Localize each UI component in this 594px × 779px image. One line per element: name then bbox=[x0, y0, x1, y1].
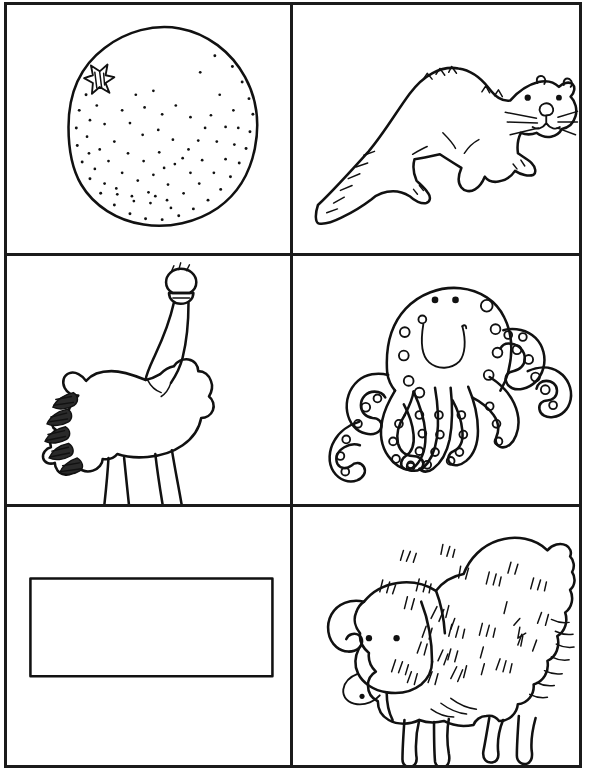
grid-cell-ox[interactable]: Ox bbox=[293, 507, 579, 765]
worksheet-page: Coloring page worksheet Orange bbox=[0, 0, 594, 779]
grid-cell-ostrich[interactable]: Ostrich bbox=[7, 256, 293, 507]
grid-cell-orange[interactable]: Orange bbox=[7, 5, 293, 256]
grid-cell-octopus[interactable]: Octopus bbox=[293, 256, 579, 507]
picture-grid: Orange bbox=[7, 5, 579, 765]
grid-cell-blank-box[interactable] bbox=[7, 507, 293, 765]
empty-rectangle-icon[interactable] bbox=[7, 507, 290, 765]
octopus-icon bbox=[293, 256, 579, 504]
grid-cell-otter[interactable]: Otter bbox=[293, 5, 579, 256]
orange-fruit-icon bbox=[7, 5, 290, 253]
worksheet-frame: Orange bbox=[4, 2, 582, 768]
ostrich-icon bbox=[7, 256, 290, 504]
otter-icon bbox=[293, 5, 579, 253]
musk-ox-icon bbox=[293, 507, 579, 765]
